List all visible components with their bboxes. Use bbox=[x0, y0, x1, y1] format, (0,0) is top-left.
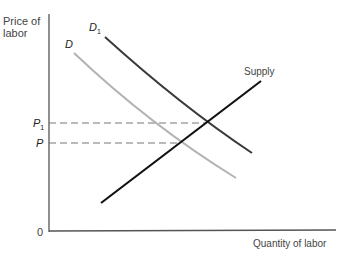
y-axis-label-line1: Price of bbox=[3, 15, 40, 27]
p1-tick-label: P1 bbox=[33, 117, 44, 134]
y-axis-label-line2: labor bbox=[3, 27, 40, 39]
p-tick-label: P bbox=[36, 137, 43, 149]
d-curve-label: D bbox=[65, 38, 73, 50]
x-axis-label: Quantity of labor bbox=[253, 238, 326, 250]
demand-curve-d1 bbox=[105, 37, 252, 153]
supply-curve-label: Supply bbox=[244, 66, 275, 78]
chart-canvas bbox=[0, 0, 347, 261]
demand-curve-d bbox=[74, 53, 236, 178]
d1-curve-label: D1 bbox=[89, 21, 101, 38]
origin-label: 0 bbox=[37, 226, 43, 238]
x-axis bbox=[49, 230, 336, 231]
y-axis-label: Price of labor bbox=[3, 15, 40, 39]
